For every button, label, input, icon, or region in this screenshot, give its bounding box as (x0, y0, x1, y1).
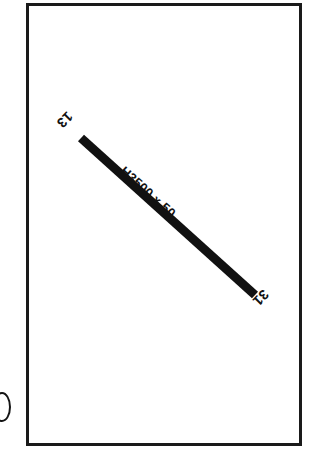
drawing-frame (26, 3, 302, 446)
edge-artifact-glyph (0, 392, 11, 422)
drawing-sheet: 13 H3500 x 50 31 (0, 0, 317, 458)
